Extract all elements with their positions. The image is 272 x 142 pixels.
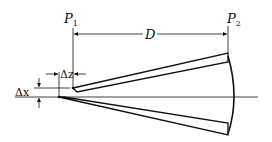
p1-label: P1 xyxy=(64,12,78,28)
upper-beam xyxy=(73,53,228,92)
p2-label: P2 xyxy=(227,12,241,28)
lower-beam xyxy=(59,97,228,135)
delta-z-label: Δz xyxy=(60,69,74,80)
diagram-canvas: P1 P2 D Δz Δx xyxy=(0,0,272,142)
p2-label-text: P xyxy=(227,11,236,26)
p2-label-subscript: 2 xyxy=(236,19,241,28)
delta-x-label: Δx xyxy=(15,87,29,98)
wavefront-arc xyxy=(228,56,234,134)
source-point-p1 xyxy=(72,87,75,90)
p1-label-text: P xyxy=(64,11,73,26)
p1-label-subscript: 1 xyxy=(73,19,78,28)
distance-label: D xyxy=(143,28,157,41)
